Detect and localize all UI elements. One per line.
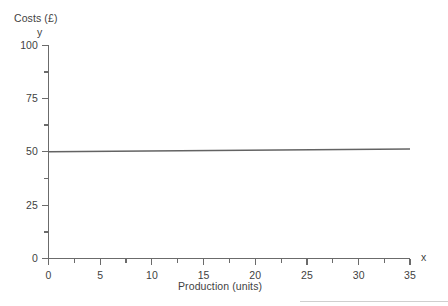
cost-production-line-chart: Costs (£) y 100 75 50 25 0 0 5 10 15 20 … (0, 0, 448, 306)
x-axis-name: x (421, 252, 426, 263)
x-tick-label-0: 0 (34, 270, 64, 281)
y-tick-label-50: 50 (8, 146, 38, 157)
fixed-costs-line (49, 149, 411, 152)
y-axis-title: Costs (£) (14, 13, 58, 24)
x-tick-label-10: 10 (137, 270, 167, 281)
y-tick-label-0: 0 (8, 253, 38, 264)
x-tick-label-35: 35 (395, 270, 425, 281)
y-tick-label-75: 75 (8, 93, 38, 104)
x-tick-label-30: 30 (344, 270, 374, 281)
x-axis-title: Production (units) (178, 281, 262, 292)
x-tick-label-5: 5 (85, 270, 115, 281)
y-tick-label-100: 100 (8, 40, 38, 51)
chart-canvas (0, 0, 448, 306)
y-axis-name: y (37, 27, 42, 38)
y-tick-label-25: 25 (8, 200, 38, 211)
x-tick-label-25: 25 (292, 270, 322, 281)
